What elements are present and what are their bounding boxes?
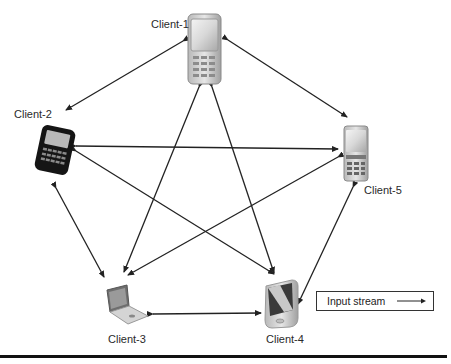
mobile-phone-icon <box>188 14 221 84</box>
client-2-label: Client-2 <box>14 108 52 120</box>
client-5-label: Client-5 <box>364 184 402 196</box>
mobile-phone-icon <box>344 126 368 181</box>
edge-client1-client5 <box>228 40 347 117</box>
client-5-device[interactable] <box>344 126 368 181</box>
blackberry-phone-icon <box>34 124 77 176</box>
pda-icon <box>265 280 298 328</box>
edge-client1-client2 <box>66 41 183 110</box>
legend-label: Input stream <box>327 295 385 307</box>
edge-client5-client4 <box>298 187 353 304</box>
edge-client2-client5 <box>76 146 338 149</box>
edge-client1-client3 <box>124 87 199 272</box>
arrow-right-icon <box>397 297 427 305</box>
laptop-icon <box>107 285 148 324</box>
client-2-device[interactable] <box>34 124 77 176</box>
edge-client1-client4 <box>212 87 274 273</box>
edge-client3-client4 <box>153 313 261 314</box>
legend-box: Input stream <box>316 291 434 311</box>
client-3-device[interactable] <box>107 285 148 324</box>
edge-client2-client4 <box>76 151 274 274</box>
edge-client2-client3 <box>56 188 104 277</box>
client-1-device[interactable] <box>188 14 221 84</box>
client-4-device[interactable] <box>265 280 298 328</box>
client-3-label: Client-3 <box>108 333 146 345</box>
client-1-label: Client-1 <box>151 18 189 30</box>
client-4-label: Client-4 <box>266 333 304 345</box>
edge-client5-client3 <box>128 157 338 275</box>
bottom-divider <box>0 355 447 358</box>
